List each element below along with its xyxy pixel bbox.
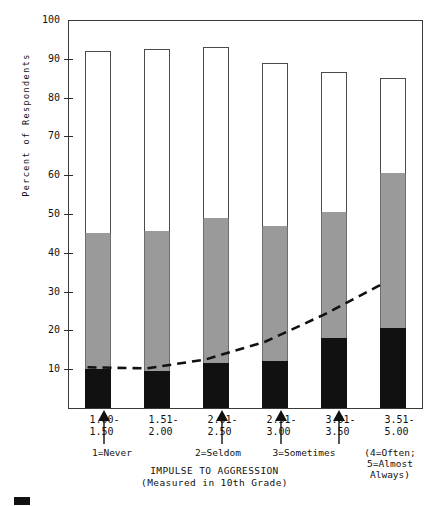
bar-5 [321,72,347,408]
bar-3-segment-gray [203,218,229,364]
y-tick-label-90: 90 [28,54,60,64]
bar-6-segment-black [380,328,406,408]
x-axis-title-line2: (Measured in 10th Grade) [0,477,429,489]
bar-6 [380,78,406,408]
y-tick-mark-30 [64,292,73,293]
bar-4-segment-gray [262,226,288,362]
y-tick-mark-40 [64,253,73,254]
y-tick-mark-90 [64,59,73,60]
anchor-arrow-2 [216,410,228,448]
y-tick-mark-20 [64,330,73,331]
legend [14,497,36,505]
y-tick-label-40: 40 [28,248,60,258]
y-tick-mark-80 [64,98,73,99]
x-axis-title-line1: IMPULSE TO AGGRESSION [0,465,429,477]
y-tick-label-100: 100 [28,15,60,25]
anchor-arrow-1 [98,410,110,448]
bar-6-segment-gray [380,173,406,328]
anchor-label-1: 1=Never [72,447,152,458]
y-tick-label-80: 80 [28,93,60,103]
bar-2-segment-black [144,371,170,408]
bar-2 [144,49,170,408]
y-tick-label-20: 20 [28,325,60,335]
y-tick-label-50: 50 [28,209,60,219]
y-tick-label-60: 60 [28,170,60,180]
bar-3 [203,47,229,408]
bar-4 [262,63,288,408]
y-tick-label-70: 70 [28,131,60,141]
y-tick-mark-10 [64,369,73,370]
category-label-2: 1.51- 2.00 [149,414,179,437]
y-tick-mark-50 [64,214,73,215]
bar-4-segment-black [262,361,288,408]
anchor-label-3: 3=Sometimes [264,447,344,458]
bar-5-segment-gray [321,212,347,338]
bar-2-segment-gray [144,231,170,371]
plot-top-border [68,20,423,21]
anchor-label-2: 2=Seldom [178,447,258,458]
y-tick-label-30: 30 [28,287,60,297]
chart-root: Percent of Respondents 10203040506070809… [0,0,429,506]
y-tick-label-10: 10 [28,364,60,374]
plot-right-border [422,20,423,409]
y-tick-mark-70 [64,136,73,137]
x-axis-line [68,408,423,409]
y-tick-mark-60 [64,175,73,176]
x-axis-title: IMPULSE TO AGGRESSION (Measured in 10th … [0,465,429,489]
bar-3-segment-black [203,363,229,408]
bar-1 [85,51,111,408]
bar-1-segment-black [85,369,111,408]
category-label-6: 3.51- 5.00 [385,414,415,437]
anchor-arrow-3 [275,410,287,448]
anchor-arrow-4 [333,410,345,448]
bar-5-segment-black [321,338,347,408]
bar-1-segment-gray [85,233,111,369]
legend-swatch-black [14,497,30,505]
